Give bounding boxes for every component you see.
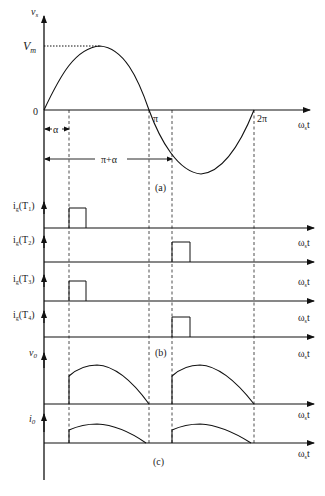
- svg-text:ig(T2): ig(T2): [13, 234, 35, 246]
- caption-a: (a): [155, 182, 166, 194]
- ig-t2-pulse: [172, 242, 190, 262]
- svg-text:i0: i0: [29, 413, 36, 426]
- v0-waveform-2: [172, 365, 254, 404]
- svg-text:ωst: ωst: [298, 409, 310, 421]
- i0-waveform-1: [69, 424, 146, 443]
- svg-text:ig(T3): ig(T3): [13, 273, 35, 285]
- svg-text:Vm: Vm: [23, 39, 36, 55]
- origin-label: 0: [33, 106, 38, 117]
- svg-text:ωst: ωst: [298, 276, 310, 288]
- svg-text:ig(T4): ig(T4): [13, 309, 35, 321]
- ig-t4-pulse: [172, 317, 190, 337]
- svg-text:ωst: ωst: [298, 348, 310, 360]
- thyristor-waveform-diagram: vs Vm 0 π 2π ωst α π+α (a) ig(T1) ωst ig…: [0, 0, 325, 496]
- svg-text:v0: v0: [29, 347, 37, 360]
- two-pi-label: 2π: [257, 113, 267, 124]
- svg-text:ωst: ωst: [298, 448, 310, 460]
- v0-waveform-1: [69, 365, 149, 404]
- ig-t3-pulse: [69, 281, 86, 301]
- svg-text:ωst: ωst: [298, 312, 310, 324]
- svg-text:ig(T1): ig(T1): [13, 200, 35, 212]
- svg-text:ωst: ωst: [298, 237, 310, 249]
- pi-alpha-label: π+α: [101, 154, 118, 165]
- pi-label: π: [153, 113, 158, 124]
- panel-c: v0 ωst i0 ωst (c): [29, 347, 314, 468]
- i0-waveform-2: [172, 424, 251, 443]
- ig-t1-pulse: [69, 208, 86, 228]
- caption-c: (c): [153, 456, 164, 468]
- alpha-label: α: [53, 124, 59, 135]
- svg-text:vs: vs: [31, 6, 38, 19]
- panel-b: ig(T1) ωst ig(T2) ωst ig(T3) ωst ig(T4) …: [13, 200, 314, 360]
- svg-text:ωst: ωst: [298, 119, 310, 131]
- panel-a: vs Vm 0 π 2π ωst α π+α (a): [23, 6, 310, 194]
- caption-b: (b): [155, 347, 167, 359]
